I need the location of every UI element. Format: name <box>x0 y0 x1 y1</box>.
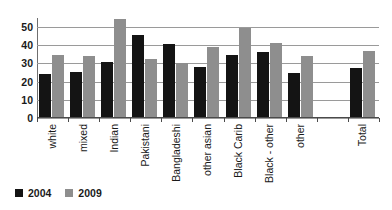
x-axis-category-label: other <box>295 124 306 148</box>
legend-label: 2009 <box>78 188 101 199</box>
bar <box>257 52 269 117</box>
bar-group <box>348 17 379 117</box>
bar <box>194 67 206 117</box>
bar <box>145 59 157 117</box>
bar <box>288 73 300 117</box>
x-axis-tick <box>99 118 100 122</box>
x-axis-category-label: mixed <box>78 124 89 152</box>
x-axis-tick <box>68 118 69 122</box>
bar <box>239 28 251 117</box>
y-axis-tick-label: 30 <box>3 58 33 69</box>
bar-group <box>255 17 286 117</box>
bar-group <box>37 17 68 117</box>
bar <box>70 72 82 117</box>
x-axis-category-label: Total <box>357 124 368 146</box>
legend-entry[interactable]: 2009 <box>65 188 101 199</box>
bar-group <box>161 17 192 117</box>
bar <box>363 51 375 117</box>
bar <box>101 62 113 117</box>
bar <box>207 47 219 117</box>
bar <box>350 68 362 117</box>
y-axis-tick-label: 20 <box>3 76 33 87</box>
bar <box>226 55 238 117</box>
legend-label: 2004 <box>28 188 51 199</box>
bar <box>83 56 95 117</box>
bar <box>163 44 175 117</box>
x-axis-tick <box>161 118 162 122</box>
bar <box>114 19 126 117</box>
x-axis-category-labels: whitemixedIndianPakistaniBangladeshiothe… <box>37 124 379 186</box>
x-axis-category-label: Black Carib <box>233 124 244 178</box>
bar <box>176 63 188 117</box>
x-axis-tick <box>37 118 38 122</box>
x-axis-tick <box>348 118 349 122</box>
bar-group <box>130 17 161 117</box>
plot-area <box>37 18 379 118</box>
bar <box>301 56 313 117</box>
legend-swatch-icon <box>65 189 73 197</box>
x-axis-tick <box>192 118 193 122</box>
gridline <box>37 118 379 119</box>
bar-group <box>99 17 130 117</box>
bar-group <box>192 17 223 117</box>
bar-group <box>68 17 99 117</box>
x-axis-tick <box>130 118 131 122</box>
x-axis-tick <box>286 118 287 122</box>
x-axis-tick <box>317 118 318 122</box>
bar <box>132 35 144 117</box>
y-axis-tick-label: 10 <box>3 95 33 106</box>
x-axis-tick <box>379 118 380 122</box>
x-axis-category-label: white <box>47 124 58 149</box>
y-axis-tick-label: 50 <box>3 22 33 33</box>
x-axis-tick <box>224 118 225 122</box>
x-axis-category-label: Pakistani <box>140 124 151 167</box>
x-axis-category-label: other asian <box>202 124 213 176</box>
legend-swatch-icon <box>15 189 23 197</box>
bar-group <box>286 17 317 117</box>
chart-legend: 20042009 <box>15 188 102 199</box>
bar <box>270 43 282 117</box>
bar-chart: 01020304050 whitemixedIndianPakistaniBan… <box>0 0 392 210</box>
x-axis-category-label: Bangladeshi <box>171 124 182 182</box>
x-axis-category-label: Black - other <box>264 124 275 183</box>
x-axis-category-label: Indian <box>109 124 120 153</box>
legend-entry[interactable]: 2004 <box>15 188 51 199</box>
y-axis-tick-label: 40 <box>3 40 33 51</box>
bar <box>52 55 64 117</box>
bar-group <box>317 17 348 117</box>
y-axis-tick-label: 0 <box>3 113 33 124</box>
x-axis-tick <box>255 118 256 122</box>
bar <box>39 74 51 117</box>
bar-group <box>224 17 255 117</box>
